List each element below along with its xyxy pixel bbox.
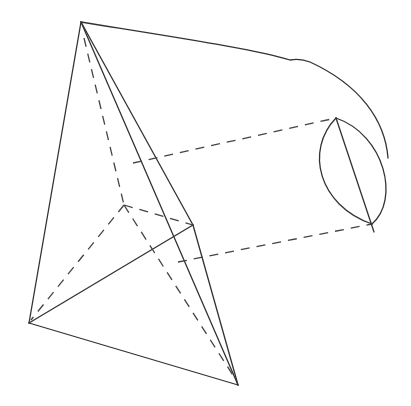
pyramid-diagram	[0, 0, 411, 406]
hidden-inner-bottom	[124, 205, 236, 380]
lens-left-arc	[319, 118, 372, 224]
projection-lines	[133, 118, 372, 262]
hidden-inner-left	[31, 205, 124, 320]
projection-upper	[133, 118, 336, 163]
lens-shape	[319, 118, 386, 232]
edge-apex-right	[81, 22, 193, 225]
edge-apex-bottom	[81, 22, 238, 385]
edge-left-bottom	[29, 323, 238, 385]
visible-edges	[29, 22, 238, 385]
edge-apex-left	[29, 22, 81, 323]
edge-right-bottom	[193, 225, 238, 385]
hidden-edges	[31, 38, 236, 380]
projection-lower	[178, 224, 372, 262]
lens-chord	[336, 118, 374, 232]
